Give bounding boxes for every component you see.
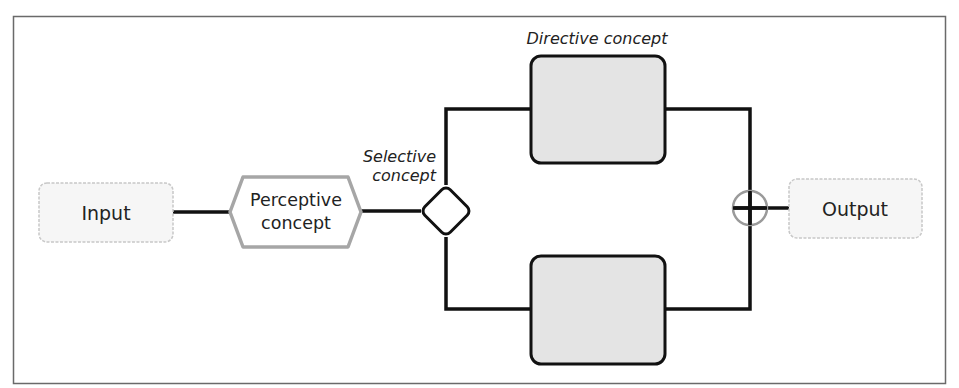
selective-label-line2: concept	[372, 166, 437, 185]
output-label: Output	[822, 198, 888, 220]
input-node[interactable]: Input	[39, 183, 173, 242]
directive-concept-top-node[interactable]: Directive concept	[527, 29, 669, 163]
perceptive-label-line1: Perceptive	[250, 190, 342, 210]
selective-concept-node[interactable]: Selective concept	[363, 147, 472, 236]
directive-top-box	[531, 56, 665, 163]
perceptive-concept-node[interactable]: Perceptive concept	[230, 177, 361, 247]
hexagon-shape	[230, 177, 361, 247]
directive-caption: Directive concept	[527, 29, 669, 48]
diagram-canvas: Input Perceptive concept Selective conce…	[0, 0, 959, 388]
output-node[interactable]: Output	[789, 179, 922, 238]
directive-concept-bottom-node[interactable]	[531, 256, 665, 364]
perceptive-label-line2: concept	[261, 213, 331, 233]
edge-selective-top	[446, 109, 531, 185]
diamond-shape	[421, 186, 472, 237]
directive-bottom-box	[531, 256, 665, 364]
merge-junction	[733, 191, 767, 225]
selective-label-line1: Selective	[363, 147, 436, 166]
input-label: Input	[81, 202, 130, 224]
edge-selective-bottom	[446, 237, 531, 309]
